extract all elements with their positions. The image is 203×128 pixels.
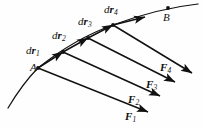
force-label-f3: F3 (146, 79, 157, 92)
f3-arrow (88, 38, 175, 82)
displacement-label-dr3: dr3 (78, 16, 92, 29)
displacement-label-dr2: dr2 (52, 30, 66, 43)
f2-subscript: 2 (135, 98, 139, 107)
displacement-label-dr1: dr1 (26, 45, 40, 58)
vertex-b (166, 6, 170, 10)
point-label-a: A (30, 62, 37, 73)
point-label-b: B (163, 12, 170, 23)
force-label-f2: F2 (128, 94, 139, 107)
f4-subscript: 4 (167, 66, 171, 75)
displacement-label-dr4: dr4 (104, 4, 118, 17)
force-label-f1: F1 (125, 111, 136, 124)
dr4-arrow (113, 17, 145, 25)
vertex-3 (111, 23, 115, 27)
f3-subscript: 3 (153, 83, 157, 92)
dr2-arrow (63, 38, 88, 52)
vertex-1 (61, 50, 65, 54)
f1-subscript: 1 (132, 115, 136, 124)
vertex-2 (86, 36, 90, 40)
vector-diagram-figure: A B dr1 dr2 dr3 dr4 F1 F2 F3 F4 (0, 0, 203, 128)
dr1-arrow (38, 52, 63, 68)
force-label-f4: F4 (160, 62, 171, 75)
dr3-subscript: 3 (88, 20, 92, 29)
dr1-subscript: 1 (36, 49, 40, 58)
dr2-subscript: 2 (62, 34, 66, 43)
dr4-subscript: 4 (114, 8, 118, 17)
f4-arrow (113, 25, 192, 73)
